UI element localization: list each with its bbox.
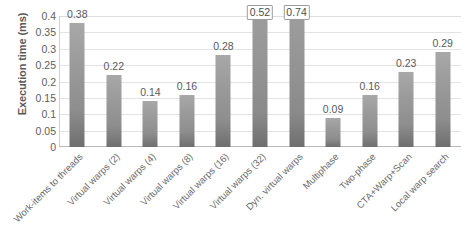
- x-axis-labels: Work-items to threadsVirtual warps (2)Vi…: [59, 147, 461, 240]
- bar-group: 0.38: [59, 0, 96, 147]
- bar-group: 0.29: [424, 0, 461, 147]
- y-axis-tick-label: 0.1: [26, 108, 56, 120]
- bar[interactable]: [289, 10, 304, 147]
- bar[interactable]: [326, 118, 341, 147]
- bar-group: 0.28: [205, 0, 242, 147]
- y-axis-tick-label: 0.2: [26, 76, 56, 88]
- bar-value-label: 0.16: [359, 80, 379, 92]
- bar-value-label: 0.29: [433, 37, 453, 49]
- bar-group: 0.52: [242, 0, 279, 147]
- bar-value-label: 0.38: [67, 8, 87, 20]
- bar[interactable]: [179, 95, 194, 147]
- bar-value-label: 0.52: [247, 5, 273, 20]
- bar-group: 0.14: [132, 0, 169, 147]
- bar-value-label: 0.09: [323, 103, 343, 115]
- bar[interactable]: [143, 101, 158, 147]
- bar-group: 0.09: [315, 0, 352, 147]
- bar[interactable]: [362, 95, 377, 147]
- y-axis-tick-label: 0.35: [26, 26, 56, 38]
- bar-group: 0.74: [278, 0, 315, 147]
- x-axis-label-slot: Local warp search: [424, 147, 461, 240]
- y-axis-tick-label: 0.15: [26, 92, 56, 104]
- bar[interactable]: [70, 23, 85, 147]
- bar[interactable]: [106, 75, 121, 147]
- bar[interactable]: [252, 10, 267, 147]
- bar-value-label: 0.16: [177, 80, 197, 92]
- bar-value-label: 0.74: [283, 5, 309, 20]
- bar[interactable]: [435, 52, 450, 147]
- bar-value-label: 0.22: [104, 60, 124, 72]
- bar-value-label: 0.14: [140, 86, 160, 98]
- x-axis-label-slot: Multiphase: [315, 147, 352, 240]
- y-axis-tick-label: 0.4: [26, 10, 56, 22]
- bar[interactable]: [216, 55, 231, 147]
- bar-group: 0.22: [96, 0, 133, 147]
- bar-group: 0.16: [351, 0, 388, 147]
- y-axis-tick-label: 0.25: [26, 59, 56, 71]
- bars-layer: 0.380.220.140.160.280.520.740.090.160.23…: [59, 0, 461, 147]
- bar-group: 0.16: [169, 0, 206, 147]
- x-axis-label-slot: Dyn. virtual warps: [278, 147, 315, 240]
- y-axis-tick-label: 0: [26, 141, 56, 153]
- bar-group: 0.23: [388, 0, 425, 147]
- bar[interactable]: [399, 72, 414, 147]
- bar-chart: Execution time (ms) 0.40.350.30.250.20.1…: [0, 0, 465, 240]
- bar-value-label: 0.23: [396, 57, 416, 69]
- y-axis-tick-label: 0.05: [26, 125, 56, 137]
- y-axis-tick-label: 0.3: [26, 43, 56, 55]
- bar-value-label: 0.28: [213, 40, 233, 52]
